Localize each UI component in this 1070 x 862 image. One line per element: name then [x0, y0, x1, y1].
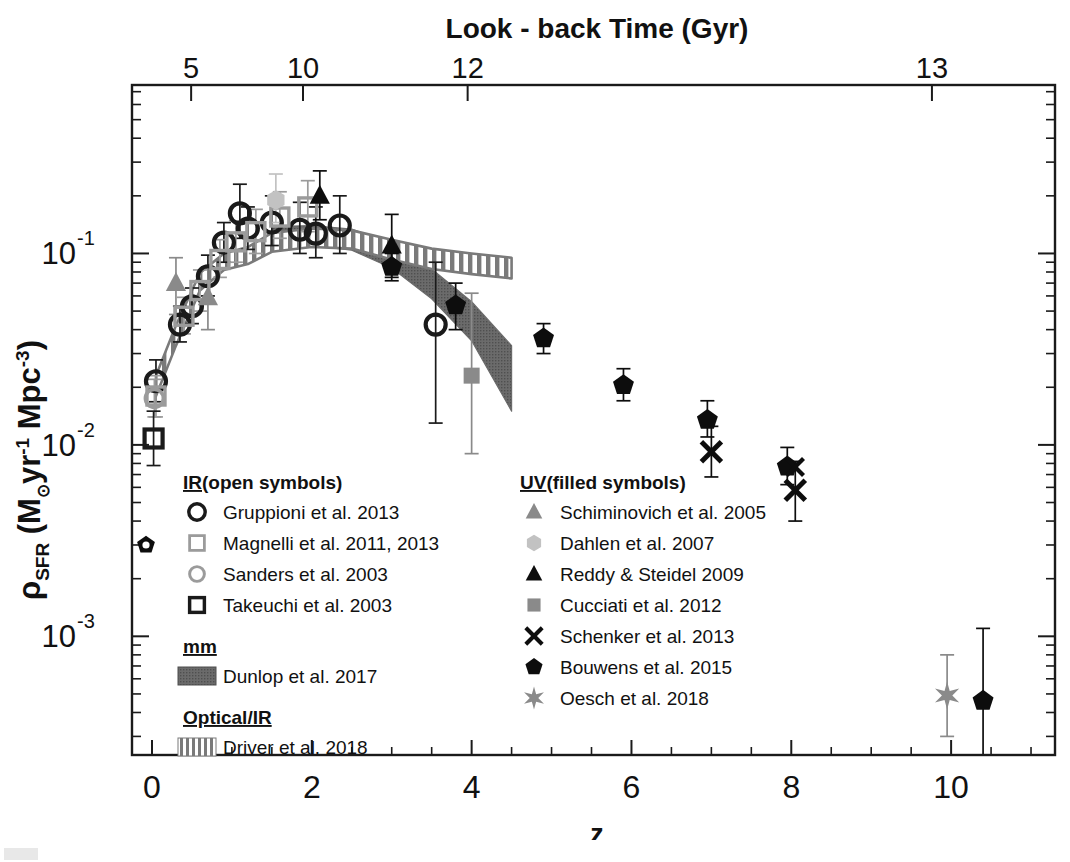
legend-section-heading: UV(filled symbols) — [520, 472, 686, 493]
bottom-white-strip — [0, 840, 1070, 862]
legend-item[interactable]: Oesch et al. 2018 — [524, 687, 709, 710]
svg-text:Optical/IR: Optical/IR — [183, 707, 272, 728]
marker-filled-pentagon — [973, 690, 994, 710]
marker-filled-hex-gray — [527, 535, 541, 551]
legend-item[interactable]: Bouwens et al. 2015 — [525, 657, 732, 678]
svg-text:-3: -3 — [77, 610, 95, 632]
x-tick-label-2: 2 — [303, 769, 321, 805]
marker-filled-pentagon — [697, 409, 718, 429]
marker-star-gray — [524, 687, 544, 710]
legend-left-ir-mm-optical: IR(open symbols)Gruppioni et al. 2013Mag… — [178, 472, 439, 758]
figure-page: Look - back Time (Gyr)51012130246810z10-… — [0, 0, 1070, 862]
y-axis-title: ρSFR (M⊙yr-1 Mpc-3) — [12, 340, 53, 600]
top-tick-label-12: 12 — [452, 52, 484, 84]
marker-filled-pentagon — [533, 327, 554, 347]
legend-item-label: Schenker et al. 2013 — [560, 626, 734, 647]
legend-item[interactable]: Magnelli et al. 2011, 2013 — [190, 533, 440, 554]
corner-artifact — [4, 848, 38, 860]
marker-filled-square-gray — [527, 598, 540, 611]
axes-layer — [132, 85, 1055, 755]
x-tick-label-0: 0 — [143, 769, 161, 805]
x-tick-label-10: 10 — [933, 769, 969, 805]
legend-item-label: Schiminovich et al. 2005 — [560, 502, 766, 523]
marker-open-square-gray — [190, 536, 205, 551]
marker-filled-triangle-gray — [526, 503, 543, 519]
legend-item-label: Reddy & Steidel 2009 — [560, 564, 744, 585]
y-tick-label-10-3: 10-3 — [42, 610, 95, 654]
marker-solid-dark-band — [178, 667, 216, 685]
error-bar — [147, 411, 161, 465]
legend-item-label: Takeuchi et al. 2003 — [223, 595, 392, 616]
marker-filled-pentagon — [525, 658, 542, 674]
svg-text:-2: -2 — [77, 419, 95, 441]
legend-item-label: Bouwens et al. 2015 — [560, 657, 732, 678]
marker-filled-square-gray — [464, 368, 480, 384]
legend-item[interactable]: Gruppioni et al. 2013 — [189, 502, 400, 523]
legend-item-label: Gruppioni et al. 2013 — [223, 502, 399, 523]
legend-item[interactable]: Sanders et al. 2003 — [190, 564, 388, 585]
series-cucciati-et-al-2012 — [464, 368, 480, 384]
x-tick-label-6: 6 — [623, 769, 641, 805]
series-oesch-et-al-2018 — [935, 682, 959, 710]
legend-item[interactable]: Takeuchi et al. 2003 — [190, 595, 392, 616]
legend-section-heading: mm — [183, 636, 217, 657]
legend-item-label: Oesch et al. 2018 — [560, 688, 709, 709]
legend-item-label: Dunlop et al. 2017 — [223, 666, 377, 687]
marker-star-gray — [935, 682, 959, 710]
stray-pentagon-artifact — [137, 536, 155, 553]
legend-section-heading: IR(open symbols) — [183, 472, 342, 493]
marker-open-circle — [189, 504, 205, 520]
legend-right-uv: UV(filled symbols)Schiminovich et al. 20… — [520, 472, 766, 709]
legend-item[interactable]: Schiminovich et al. 2005 — [526, 502, 766, 523]
legend-item[interactable]: Dahlen et al. 2007 — [527, 533, 714, 554]
x-tick-label-8: 8 — [782, 769, 800, 805]
marker-open-square — [190, 598, 205, 613]
legend-layer: IR(open symbols)Gruppioni et al. 2013Mag… — [137, 459, 803, 759]
legend-item[interactable]: Dunlop et al. 2017 — [178, 666, 377, 687]
legend-item[interactable]: Driver et al. 2018 — [178, 737, 368, 758]
marker-open-circle-gray — [190, 567, 205, 582]
marker-filled-triangle-gray — [166, 272, 186, 291]
sfr-density-chart: Look - back Time (Gyr)51012130246810z10-… — [0, 0, 1070, 862]
marker-hatched-band — [178, 738, 216, 756]
svg-text:10: 10 — [42, 619, 76, 654]
plot-frame — [132, 85, 1055, 755]
top-tick-label-5: 5 — [183, 52, 199, 84]
pentagon-inner-hole — [142, 541, 149, 548]
y-tick-label-10-1: 10-1 — [42, 227, 95, 271]
legend-item-label: Magnelli et al. 2011, 2013 — [223, 533, 439, 554]
svg-text:UV(filled symbols): UV(filled symbols) — [520, 472, 686, 493]
marker-filled-triangle — [310, 185, 330, 204]
top-axis-title: Look - back Time (Gyr) — [446, 13, 749, 44]
svg-text:10: 10 — [42, 236, 76, 271]
legend-item-label: Driver et al. 2018 — [223, 737, 368, 758]
svg-text:mm: mm — [183, 636, 217, 657]
marker-filled-triangle — [526, 565, 543, 581]
legend-item[interactable]: Cucciati et al. 2012 — [527, 595, 721, 616]
legend-item[interactable]: Schenker et al. 2013 — [526, 626, 734, 647]
legend-section-heading: Optical/IR — [183, 707, 272, 728]
y-tick-label-10-2: 10-2 — [42, 419, 95, 463]
top-tick-label-13: 13 — [916, 52, 948, 84]
svg-text:-1: -1 — [77, 227, 95, 249]
marker-filled-pentagon — [613, 374, 634, 394]
top-tick-label-10: 10 — [287, 52, 319, 84]
legend-item-label: Dahlen et al. 2007 — [560, 533, 714, 554]
svg-text:ρSFR (M⊙yr-1 Mpc-3): ρSFR (M⊙yr-1 Mpc-3) — [12, 340, 53, 600]
legend-item-label: Sanders et al. 2003 — [223, 564, 388, 585]
legend-item[interactable]: Reddy & Steidel 2009 — [526, 564, 744, 585]
x-tick-label-4: 4 — [463, 769, 481, 805]
marker-cross-x — [526, 628, 542, 644]
legend-item-label: Cucciati et al. 2012 — [560, 595, 722, 616]
svg-text:IR(open symbols): IR(open symbols) — [183, 472, 342, 493]
